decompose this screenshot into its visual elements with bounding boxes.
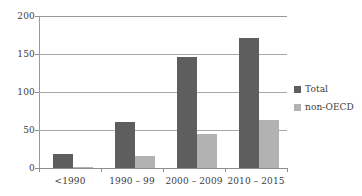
y-axis-tick-label: 100	[3, 88, 35, 97]
bar-group	[39, 16, 101, 168]
bar-total	[53, 154, 73, 168]
bar-chart: 200 150 100 50 0	[0, 0, 362, 196]
x-axis-separator	[39, 168, 40, 172]
bar-total	[177, 57, 197, 168]
legend-item-total: Total	[294, 80, 362, 98]
bar-group	[163, 16, 225, 168]
x-axis-label-0: <1990	[39, 176, 101, 186]
y-axis-tick-label: 50	[3, 126, 35, 135]
y-axis-tick-label: 0	[3, 164, 35, 173]
y-axis-tick-label: 200	[3, 12, 35, 21]
x-axis-separator	[225, 168, 226, 172]
bar-total	[115, 122, 135, 168]
legend-label-non-oecd: non-OECD	[305, 102, 354, 112]
bar-group	[225, 16, 287, 168]
plot-area	[39, 16, 287, 168]
legend: Total non-OECD	[294, 80, 362, 116]
bar-total	[239, 38, 259, 168]
x-axis-label-2: 2000 – 2009	[163, 176, 225, 186]
bar-non-oecd	[259, 120, 279, 168]
x-axis-separator	[287, 168, 288, 172]
bar-group	[101, 16, 163, 168]
x-axis-label-3: 2010 – 2015	[225, 176, 287, 186]
legend-label-total: Total	[305, 84, 328, 94]
legend-item-non-oecd: non-OECD	[294, 98, 362, 116]
y-axis: 200 150 100 50 0	[0, 0, 35, 196]
y-axis-tick-label: 150	[3, 50, 35, 59]
legend-swatch-non-oecd-icon	[294, 104, 301, 111]
bar-non-oecd	[135, 156, 155, 168]
x-axis-separator	[101, 168, 102, 172]
legend-swatch-total-icon	[294, 86, 301, 93]
bar-non-oecd	[197, 134, 217, 168]
x-axis-separator	[163, 168, 164, 172]
x-axis-label-1: 1990 – 99	[101, 176, 163, 186]
